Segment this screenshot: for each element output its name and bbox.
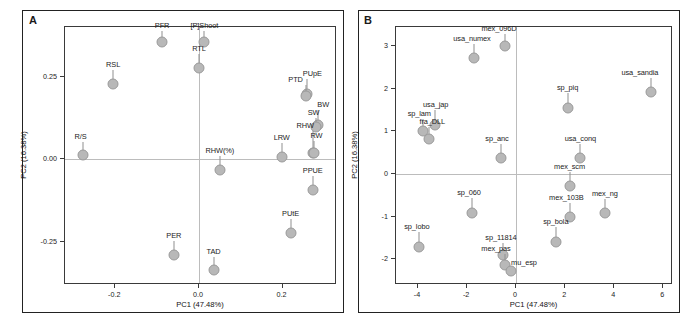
data-point-label: usa_numex xyxy=(453,34,490,43)
x-axis-tick xyxy=(417,284,418,288)
y-axis-tick xyxy=(60,241,64,242)
y-axis-tick-label: 0.00 xyxy=(24,154,57,163)
data-point xyxy=(424,134,435,145)
data-point xyxy=(550,236,561,247)
x-axis-title: PC1 (47.48%) xyxy=(176,300,224,309)
y-axis-tick xyxy=(391,130,395,131)
data-point xyxy=(193,62,204,73)
y-axis-tick-label: 2 xyxy=(355,83,388,92)
y-axis-tick xyxy=(391,88,395,89)
data-point xyxy=(495,152,506,163)
panel-b-letter: B xyxy=(364,14,372,26)
data-point-label: RSL xyxy=(106,60,120,69)
y-axis-tick xyxy=(391,45,395,46)
data-point xyxy=(77,150,88,161)
data-point xyxy=(208,265,219,276)
data-point-label: mex_ng xyxy=(592,189,618,198)
x-axis-tick xyxy=(564,284,565,288)
y-axis-tick-label: -2 xyxy=(355,254,388,263)
y-axis-tick-label: 3 xyxy=(355,41,388,50)
data-point xyxy=(108,78,119,89)
x-axis-tick xyxy=(613,284,614,288)
data-point-label: RHW(%) xyxy=(206,146,235,155)
zero-line-vertical xyxy=(516,27,517,283)
panel-b: B mex_096Dusa_numexusa_sandiasp_piqusa_j… xyxy=(350,0,687,322)
data-point-label: mex_scm xyxy=(554,162,585,171)
y-axis-tick-label: 0.25 xyxy=(24,71,57,80)
data-point-label: RW xyxy=(310,131,322,140)
y-axis-title: PC2 (16.38%) xyxy=(350,131,359,179)
x-axis-title: PC1 (47.48%) xyxy=(510,300,558,309)
y-axis-tick-label: -1 xyxy=(355,211,388,220)
y-axis-tick-label: 1 xyxy=(355,126,388,135)
data-point-label: PTD xyxy=(288,75,302,84)
y-axis-tick xyxy=(391,216,395,217)
data-point-label: RHW xyxy=(297,121,314,130)
data-point xyxy=(307,184,318,195)
panel-a-plot-area: PFR[P]ShootRTLRSLPUpEPTDBWSWR/SRHWRWLRWR… xyxy=(64,26,336,284)
data-point-label: PER xyxy=(166,231,181,240)
y-axis-tick xyxy=(391,173,395,174)
data-point xyxy=(157,36,168,47)
data-point xyxy=(500,41,511,52)
data-point xyxy=(469,53,480,64)
panel-a-letter: A xyxy=(29,14,37,26)
data-point xyxy=(300,90,311,101)
panel-a: A PFR[P]ShootRTLRSLPUpEPTDBWSWR/SRHWRWLR… xyxy=(0,0,350,322)
zero-line-horizontal xyxy=(65,159,335,160)
y-axis-tick xyxy=(60,76,64,77)
data-point xyxy=(168,250,179,261)
data-point-label: sp_piq xyxy=(557,83,578,92)
data-point-label: PUpE xyxy=(303,69,322,78)
data-point-label: [P]Shoot xyxy=(191,21,219,30)
data-point-label: RTL xyxy=(192,44,206,53)
data-point-label: TAD xyxy=(207,247,221,256)
data-point-label: sp_anc xyxy=(485,134,508,143)
data-point xyxy=(276,151,287,162)
x-axis-tick-label: -2 xyxy=(463,290,469,299)
panel-b-plot-area: mex_096Dusa_numexusa_sandiasp_piqusa_jap… xyxy=(395,26,672,284)
data-point-label: LRW xyxy=(274,133,290,142)
x-axis-tick-label: 6 xyxy=(660,290,664,299)
data-point-label: fra_DLL xyxy=(419,117,445,126)
data-point xyxy=(599,208,610,219)
data-point xyxy=(466,207,477,218)
data-point-label: usa_conq xyxy=(565,134,596,143)
x-axis-tick xyxy=(282,284,283,288)
data-point-label: SW xyxy=(308,108,320,117)
data-point-label: mu_esp xyxy=(511,258,537,267)
x-axis-tick-label: -0.2 xyxy=(108,290,120,299)
data-point-label: sp_060 xyxy=(457,188,481,197)
y-axis-title: PC2 (16.38%) xyxy=(19,131,28,179)
x-axis-tick-label: 0.0 xyxy=(193,290,203,299)
x-axis-tick-label: 0.2 xyxy=(277,290,287,299)
x-axis-tick xyxy=(466,284,467,288)
x-axis-tick xyxy=(198,284,199,288)
data-point-label: PFR xyxy=(155,21,169,30)
data-point-label: PPUE xyxy=(303,166,323,175)
data-point xyxy=(309,148,320,159)
data-point xyxy=(285,228,296,239)
data-point-label: mex_096D xyxy=(481,24,516,33)
y-axis-tick xyxy=(391,258,395,259)
y-axis-tick xyxy=(60,158,64,159)
x-axis-tick-label: 2 xyxy=(562,290,566,299)
zero-line-horizontal xyxy=(396,174,671,175)
data-point-label: sp_lobo xyxy=(404,222,429,231)
pca-figure: A PFR[P]ShootRTLRSLPUpEPTDBWSWR/SRHWRWLR… xyxy=(0,0,687,322)
data-point-label: sp_11814 xyxy=(485,233,516,242)
data-point xyxy=(564,181,575,192)
data-point xyxy=(562,103,573,114)
data-point-label: R/S xyxy=(74,132,86,141)
data-point-label: mex_103B xyxy=(549,193,584,202)
x-axis-tick xyxy=(662,284,663,288)
data-point xyxy=(414,241,425,252)
x-axis-tick xyxy=(515,284,516,288)
data-point xyxy=(214,164,225,175)
y-axis-tick-label: 0 xyxy=(355,169,388,178)
data-point-label: PUtE xyxy=(282,209,299,218)
y-axis-tick-label: -0.25 xyxy=(24,237,57,246)
x-axis-tick-label: -4 xyxy=(414,290,420,299)
x-axis-tick-label: 4 xyxy=(611,290,615,299)
data-point-label: sp_bola xyxy=(543,217,568,226)
